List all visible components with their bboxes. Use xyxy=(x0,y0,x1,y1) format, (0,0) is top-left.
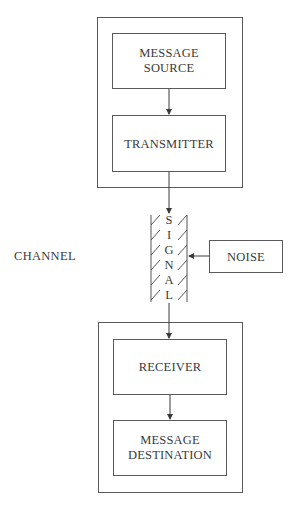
message-destination-line1: MESSAGE xyxy=(114,433,226,448)
message-destination-line2: DESTINATION xyxy=(114,448,226,463)
transmitter-box: TRANSMITTER xyxy=(112,115,226,172)
message-source-box: MESSAGE SOURCE xyxy=(112,33,226,89)
transmitter-label: TRANSMITTER xyxy=(113,136,225,151)
message-source-label: MESSAGE SOURCE xyxy=(113,46,225,76)
message-source-line2: SOURCE xyxy=(113,61,225,76)
channel-label: CHANNEL xyxy=(14,249,76,264)
signal-letter-n: N xyxy=(159,258,179,273)
message-destination-box: MESSAGE DESTINATION xyxy=(113,420,227,476)
signal-letter-g: G xyxy=(159,243,179,258)
signal-letter-l: L xyxy=(159,288,179,303)
noise-label: NOISE xyxy=(210,249,282,264)
message-destination-label: MESSAGE DESTINATION xyxy=(114,433,226,463)
receiver-box: RECEIVER xyxy=(113,339,227,395)
signal-letter-s: S xyxy=(159,213,179,228)
noise-box: NOISE xyxy=(209,240,283,273)
signal-letter-i: I xyxy=(159,228,179,243)
message-source-line1: MESSAGE xyxy=(113,46,225,61)
signal-letter-a: A xyxy=(159,273,179,288)
receiver-label: RECEIVER xyxy=(114,360,226,375)
